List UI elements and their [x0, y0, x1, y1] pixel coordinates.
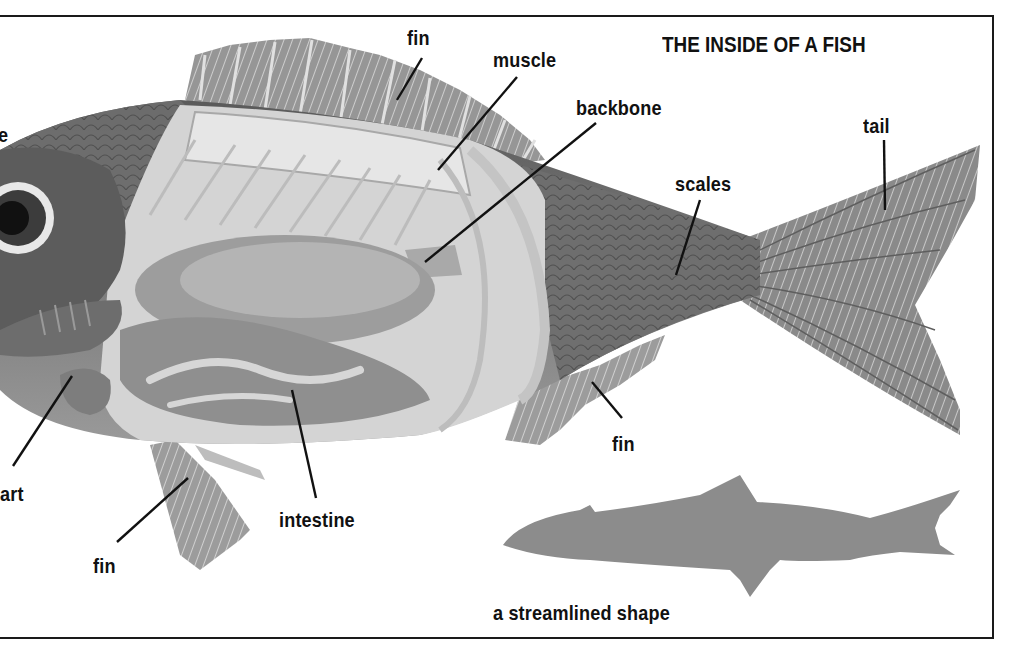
label-eye-partial: e: [0, 123, 8, 147]
diagram-title: THE INSIDE OF A FISH: [662, 32, 866, 58]
label-backbone: backbone: [576, 96, 662, 120]
label-fin-anal: fin: [612, 432, 635, 456]
label-fin-dorsal: fin: [407, 26, 430, 50]
silhouette-caption: a streamlined shape: [493, 601, 670, 625]
label-muscle: muscle: [493, 48, 556, 72]
label-heart-partial: art: [0, 482, 24, 506]
leader-tail: [884, 140, 885, 210]
fish-head: [0, 148, 126, 357]
fish-illustration: [0, 0, 1018, 650]
label-intestine: intestine: [279, 508, 355, 532]
label-scales: scales: [675, 172, 731, 196]
streamlined-silhouette: [503, 475, 960, 597]
label-tail: tail: [863, 114, 890, 138]
label-fin-pelvic: fin: [93, 554, 116, 578]
tail-fin: [740, 145, 980, 435]
